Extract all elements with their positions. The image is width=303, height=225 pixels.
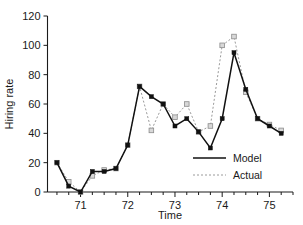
x-axis-ticks <box>57 192 293 197</box>
model-data-point <box>79 190 83 194</box>
y-tick-label: 120 <box>22 10 40 22</box>
model-data-point <box>138 84 142 88</box>
chart-container: 020406080100120 Hiring rate 7172737475 T… <box>0 0 303 225</box>
y-tick-label: 0 <box>34 186 40 198</box>
actual-data-point <box>232 34 237 39</box>
actual-data-point <box>220 43 225 48</box>
model-data-point <box>90 169 94 173</box>
legend-label-actual: Actual <box>233 169 262 181</box>
y-axis-tick-labels: 020406080100120 <box>22 10 40 198</box>
y-axis-ticks <box>44 16 48 192</box>
actual-data-point <box>149 128 154 133</box>
model-data-point <box>232 51 236 55</box>
x-axis-title: Time <box>158 209 182 221</box>
model-data-point <box>197 130 201 134</box>
x-tick-label: 72 <box>122 199 134 211</box>
chart-legend: ModelActual <box>193 152 262 181</box>
model-data-point <box>173 124 177 128</box>
model-data-point <box>149 95 153 99</box>
model-data-point <box>267 124 271 128</box>
model-data-point <box>55 161 59 165</box>
y-axis-title: Hiring rate <box>3 79 15 130</box>
y-tick-label: 100 <box>22 39 40 51</box>
x-tick-label: 71 <box>74 199 86 211</box>
model-data-point <box>114 167 118 171</box>
y-tick-label: 80 <box>28 69 40 81</box>
model-data-point <box>126 143 130 147</box>
hiring-rate-line-chart: 020406080100120 Hiring rate 7172737475 T… <box>0 0 303 225</box>
y-axis-group: 020406080100120 Hiring rate <box>3 10 48 198</box>
model-data-point <box>185 117 189 121</box>
x-axis-group: 7172737475 Time <box>48 192 294 221</box>
legend-label-model: Model <box>233 152 262 164</box>
y-tick-label: 60 <box>28 98 40 110</box>
actual-data-point <box>208 124 213 129</box>
actual-data-point <box>184 102 189 107</box>
model-data-point <box>102 169 106 173</box>
model-data-point <box>67 184 71 188</box>
model-data-point <box>256 117 260 121</box>
x-tick-label: 74 <box>216 199 228 211</box>
model-data-point <box>279 131 283 135</box>
y-tick-label: 20 <box>28 157 40 169</box>
model-data-point <box>244 87 248 91</box>
model-data-point <box>220 117 224 121</box>
model-data-point <box>208 146 212 150</box>
x-tick-label: 75 <box>263 199 275 211</box>
actual-data-point <box>173 115 178 120</box>
model-data-point <box>161 102 165 106</box>
y-tick-label: 40 <box>28 127 40 139</box>
